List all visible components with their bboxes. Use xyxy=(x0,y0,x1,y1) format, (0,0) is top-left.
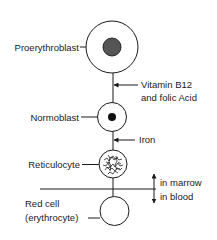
proerythroblast-cell xyxy=(86,21,138,73)
in-marrow-label: in marrow xyxy=(160,177,202,188)
in-blood-label: in blood xyxy=(160,191,193,202)
reticulocyte-label: Reticulocyte xyxy=(28,159,80,170)
folic-acid-label: and folic Acid xyxy=(141,92,197,103)
reticulocyte-cell xyxy=(99,150,127,178)
red-cell-erythrocyte xyxy=(100,197,129,226)
erythrocyte-label: (erythrocyte) xyxy=(25,212,78,223)
iron-label: Iron xyxy=(139,134,155,145)
vitamin-b12-label: Vitamin B12 xyxy=(141,79,192,90)
erythropoiesis-diagram: Proerythroblast Vitamin B12 and folic Ac… xyxy=(0,0,217,240)
proerythroblast-label: Proerythroblast xyxy=(15,42,80,53)
normoblast-cell xyxy=(98,103,127,132)
normoblast-label: Normoblast xyxy=(30,112,79,123)
red-cell-label: Red cell xyxy=(25,198,59,209)
